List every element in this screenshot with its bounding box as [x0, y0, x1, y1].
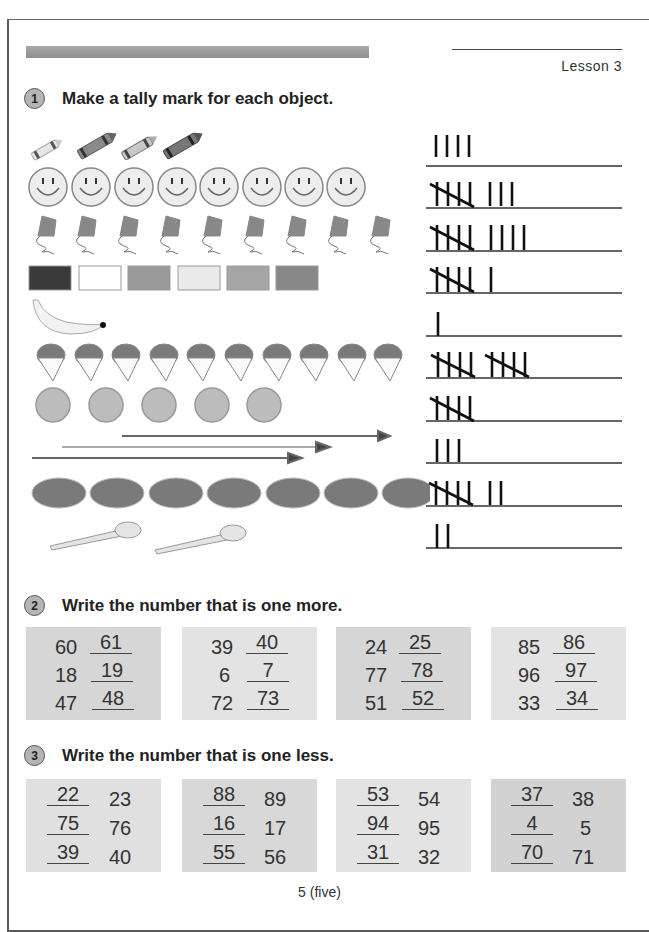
answer-field[interactable]: 37 — [511, 783, 553, 806]
given-number: 76 — [109, 817, 131, 840]
answer-field[interactable]: 94 — [357, 812, 399, 835]
answer-field[interactable]: 70 — [511, 841, 553, 864]
page-number: 5 (five) — [0, 884, 639, 900]
section-title-text: Write the number that is one less. — [62, 746, 334, 766]
given-number: 77 — [365, 664, 387, 687]
answer-field[interactable]: 52 — [402, 687, 444, 710]
answer-field[interactable]: 19 — [91, 659, 133, 682]
given-number: 40 — [109, 846, 131, 869]
answer-field[interactable]: 55 — [203, 841, 245, 864]
given-number: 71 — [572, 846, 594, 869]
answer-field[interactable]: 61 — [90, 631, 132, 654]
section-3-title: 3 Write the number that is one less. — [24, 745, 334, 766]
answer-field[interactable]: 97 — [555, 659, 597, 682]
answer-field[interactable]: 4 — [511, 812, 553, 835]
given-number: 54 — [418, 788, 440, 811]
given-number: 89 — [264, 788, 286, 811]
answer-field[interactable]: 88 — [203, 783, 245, 806]
answer-field[interactable]: 39 — [47, 841, 89, 864]
answer-field[interactable]: 40 — [246, 631, 288, 654]
given-number: 17 — [264, 817, 286, 840]
answer-field[interactable]: 22 — [47, 783, 89, 806]
given-number: 38 — [572, 788, 594, 811]
given-number: 6 — [219, 664, 230, 687]
section-2-title: 2 Write the number that is one more. — [24, 595, 342, 616]
answer-field[interactable]: 75 — [47, 812, 89, 835]
tally-marks[interactable] — [0, 0, 639, 560]
given-number: 39 — [211, 636, 233, 659]
answer-field[interactable]: 25 — [399, 631, 441, 654]
answer-field[interactable]: 73 — [247, 687, 289, 710]
given-number: 56 — [264, 846, 286, 869]
given-number: 24 — [365, 636, 387, 659]
given-number: 18 — [55, 664, 77, 687]
given-number: 72 — [211, 692, 233, 715]
given-number: 96 — [518, 664, 540, 687]
section-title-text: Write the number that is one more. — [62, 596, 342, 616]
given-number: 33 — [518, 692, 540, 715]
given-number: 51 — [365, 692, 387, 715]
given-number: 47 — [55, 692, 77, 715]
answer-field[interactable]: 53 — [357, 783, 399, 806]
answer-field[interactable]: 78 — [401, 659, 443, 682]
section-number-badge: 3 — [24, 745, 45, 766]
given-number: 85 — [518, 636, 540, 659]
given-number: 95 — [418, 817, 440, 840]
answer-field[interactable]: 86 — [553, 631, 595, 654]
answer-field[interactable]: 16 — [203, 812, 245, 835]
answer-field[interactable]: 48 — [92, 687, 134, 710]
given-number: 23 — [109, 788, 131, 811]
answer-field[interactable]: 31 — [357, 841, 399, 864]
answer-field[interactable]: 7 — [247, 659, 289, 682]
section-number-badge: 2 — [24, 595, 45, 616]
given-number: 60 — [55, 636, 77, 659]
given-number: 5 — [580, 817, 591, 840]
given-number: 32 — [418, 846, 440, 869]
answer-field[interactable]: 34 — [556, 687, 598, 710]
